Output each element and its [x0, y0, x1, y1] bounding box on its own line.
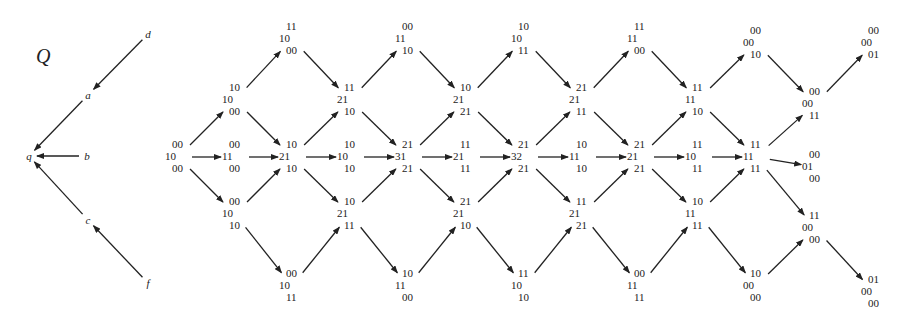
node-line-1: 11: [685, 94, 696, 106]
arrow: [362, 112, 396, 145]
node-line-0: 21: [634, 139, 645, 151]
node-line-1: 00: [802, 98, 813, 110]
vertex-b: b: [84, 151, 90, 162]
arrow: [594, 112, 628, 145]
dimension-vector-node: 112111: [451, 139, 481, 175]
node-line-0: 10: [576, 139, 587, 151]
quiver-title: Q: [36, 45, 50, 68]
node-line-0: 00: [750, 25, 761, 37]
node-line-1: 10: [337, 151, 348, 163]
node-line-1: 11: [627, 33, 638, 45]
node-line-1: 11: [395, 280, 406, 292]
node-line-0: 11: [576, 196, 587, 208]
node-line-2: 00: [229, 106, 240, 118]
dimension-vector-node: 213221: [509, 139, 539, 175]
vertex-d: d: [145, 29, 151, 40]
node-line-0: 10: [460, 82, 471, 94]
node-line-2: 10: [286, 163, 297, 175]
node-line-0: 11: [460, 139, 471, 151]
arrow: [190, 169, 223, 202]
node-line-2: 10: [460, 220, 471, 232]
node-line-2: 11: [750, 163, 761, 175]
node-line-2: 00: [172, 163, 183, 175]
dimension-vector-node: 000001: [859, 25, 889, 61]
node-line-1: 10: [165, 151, 176, 163]
dimension-vector-node: 000010: [741, 25, 771, 61]
arrow: [94, 40, 143, 90]
arrow: [593, 227, 630, 273]
node-line-1: 21: [337, 94, 348, 106]
dimension-vector-node: 212110: [451, 196, 481, 232]
node-line-0: 10: [286, 139, 297, 151]
dimension-vector-node: 112110: [335, 82, 365, 118]
node-line-1: 11: [395, 33, 406, 45]
arrow: [420, 112, 454, 145]
arrow: [769, 115, 803, 145]
node-line-2: 21: [402, 163, 413, 175]
node-line-1: 00: [743, 37, 754, 49]
node-line-0: 10: [518, 21, 529, 33]
arrow: [477, 227, 514, 273]
node-line-2: 11: [692, 163, 703, 175]
arrow: [247, 51, 281, 87]
node-line-2: 00: [809, 234, 820, 246]
arrow: [652, 112, 686, 145]
dimension-vector-node: 111111: [741, 139, 771, 175]
arrow: [361, 227, 398, 273]
node-line-2: 10: [750, 49, 761, 61]
node-line-1: 21: [627, 151, 638, 163]
node-line-2: 11: [518, 45, 529, 57]
node-line-2: 00: [809, 173, 820, 185]
arrow: [362, 169, 396, 202]
dimension-vector-node: 101000: [220, 82, 250, 118]
dimension-vector-node: 001011: [277, 268, 307, 304]
node-line-0: 00: [172, 139, 183, 151]
node-line-2: 11: [286, 292, 297, 304]
arrow: [420, 169, 454, 202]
arrow: [303, 227, 340, 273]
node-line-1: 10: [279, 33, 290, 45]
arrow: [827, 240, 863, 279]
node-line-2: 10: [344, 163, 355, 175]
node-line-0: 11: [286, 21, 297, 33]
arrow: [478, 169, 512, 202]
node-line-0: 11: [809, 210, 820, 222]
arrow: [420, 51, 455, 87]
node-line-0: 00: [229, 196, 240, 208]
node-line-1: 21: [453, 94, 464, 106]
dimension-vector-node: 000100: [800, 149, 830, 185]
node-line-2: 00: [634, 45, 645, 57]
arrow: [536, 169, 570, 202]
arrow: [535, 227, 572, 273]
node-line-0: 11: [634, 21, 645, 33]
node-line-2: 10: [692, 106, 703, 118]
node-line-1: 31: [395, 151, 406, 163]
node-line-1: 00: [802, 222, 813, 234]
dimension-vector-node: 101100: [393, 268, 423, 304]
dimension-vector-node: 001000: [163, 139, 193, 175]
node-line-1: 32: [511, 151, 522, 163]
dimension-vector-node: 100000: [741, 268, 771, 304]
node-line-1: 10: [279, 280, 290, 292]
node-line-0: 00: [286, 268, 297, 280]
arrow: [246, 227, 282, 272]
arrow: [768, 240, 803, 274]
node-line-2: 11: [634, 292, 645, 304]
arrow: [594, 169, 628, 202]
dimension-vector-node: 001110: [393, 21, 423, 57]
arrow: [710, 112, 744, 145]
node-line-0: 00: [809, 149, 820, 161]
dimension-vector-node: 111011: [683, 139, 713, 175]
vertex-c: c: [86, 215, 91, 226]
dimension-vector-node: 101111: [683, 196, 713, 232]
dimension-vector-node: 000011: [800, 86, 830, 122]
dimension-vector-node: 102110: [277, 139, 307, 175]
node-line-1: 00: [861, 37, 872, 49]
node-line-2: 10: [576, 163, 587, 175]
node-line-2: 11: [576, 106, 587, 118]
node-line-2: 11: [460, 163, 471, 175]
arrow: [247, 169, 280, 202]
node-line-1: 00: [743, 280, 754, 292]
node-line-2: 00: [286, 45, 297, 57]
arrow: [536, 112, 570, 145]
